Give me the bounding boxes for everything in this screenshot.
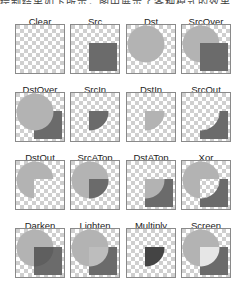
mode-cell-srcout: SrcOut bbox=[181, 84, 237, 150]
mode-cell-darken: Darken bbox=[15, 220, 71, 286]
composite-preview-icon bbox=[182, 229, 230, 277]
mode-cell-srcover: SrcOver bbox=[181, 16, 237, 82]
mode-tile bbox=[70, 228, 120, 278]
mode-tile bbox=[15, 160, 65, 210]
composite-preview-icon bbox=[182, 161, 230, 209]
composite-preview-icon bbox=[182, 25, 230, 73]
mode-cell-dstin: DstIn bbox=[126, 84, 182, 150]
mode-tile bbox=[70, 92, 120, 142]
mode-tile bbox=[181, 24, 231, 74]
mode-cell-src: Src bbox=[70, 16, 126, 82]
mode-tile bbox=[15, 92, 65, 142]
mode-tile bbox=[126, 228, 176, 278]
mode-tile bbox=[15, 228, 65, 278]
mode-cell-clear: Clear bbox=[15, 16, 71, 82]
mode-tile bbox=[181, 160, 231, 210]
mode-tile bbox=[126, 160, 176, 210]
composite-preview-icon bbox=[71, 229, 119, 277]
mode-cell-xor: Xor bbox=[181, 152, 237, 218]
mode-tile bbox=[15, 24, 65, 74]
mode-tile bbox=[70, 24, 120, 74]
composite-preview-icon bbox=[71, 161, 119, 209]
mode-cell-srcin: SrcIn bbox=[70, 84, 126, 150]
mode-cell-multiply: Multiply bbox=[126, 220, 182, 286]
composite-preview-icon bbox=[127, 93, 175, 141]
composite-preview-icon bbox=[16, 161, 64, 209]
mode-cell-dstover: DstOver bbox=[15, 84, 71, 150]
composite-preview-icon bbox=[127, 25, 175, 73]
mode-cell-dstout: DstOut bbox=[15, 152, 71, 218]
composite-preview-icon bbox=[16, 93, 64, 141]
mode-cell-lighten: Lighten bbox=[70, 220, 126, 286]
mode-tile bbox=[181, 228, 231, 278]
mode-tile bbox=[181, 92, 231, 142]
composite-preview-icon bbox=[16, 25, 64, 73]
mode-tile bbox=[70, 160, 120, 210]
mode-cell-dstatop: DstATop bbox=[126, 152, 182, 218]
mode-cell-srcatop: SrcATop bbox=[70, 152, 126, 218]
composite-preview-icon bbox=[127, 161, 175, 209]
mode-tile bbox=[126, 92, 176, 142]
mode-cell-screen: Screen bbox=[181, 220, 237, 286]
composite-preview-icon bbox=[71, 25, 119, 73]
composite-preview-icon bbox=[71, 93, 119, 141]
composite-preview-icon bbox=[127, 229, 175, 277]
mode-cell-dst: Dst bbox=[126, 16, 182, 82]
composite-preview-icon bbox=[16, 229, 64, 277]
porter-duff-modes-grid: Clear Src Dst bbox=[0, 0, 244, 292]
mode-tile bbox=[126, 24, 176, 74]
composite-preview-icon bbox=[182, 93, 230, 141]
